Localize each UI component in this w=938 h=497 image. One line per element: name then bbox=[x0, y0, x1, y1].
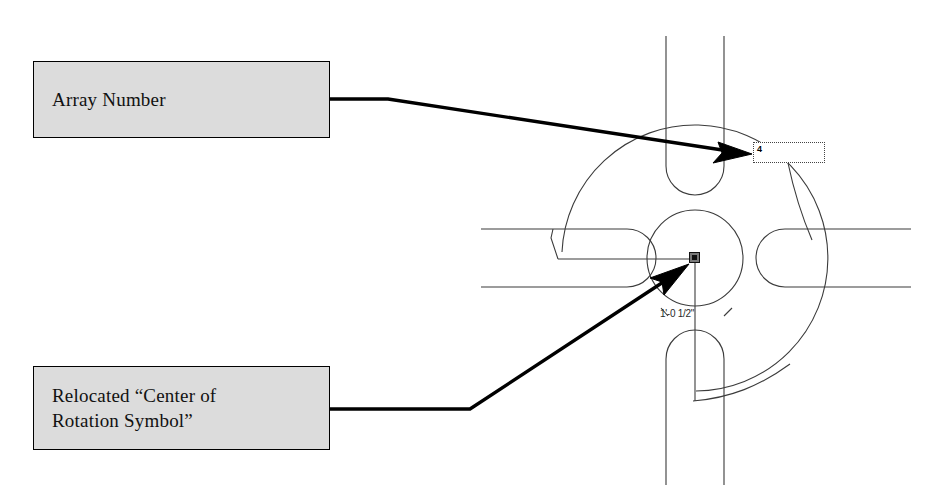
array-number-value: 4 bbox=[757, 144, 762, 154]
callout-label-array-number: Array Number bbox=[52, 87, 166, 112]
arrowhead-rotation-symbol bbox=[650, 264, 689, 295]
leader-line-rotation-symbol bbox=[330, 271, 680, 409]
center-of-rotation-symbol-core bbox=[692, 255, 697, 260]
figure-canvas: 4 1'-0 1/2" Array Number Relocated “Cent… bbox=[0, 0, 938, 497]
arrowhead-array-number bbox=[713, 142, 752, 163]
callout-label-rotation-symbol: Relocated “Center of Rotation Symbol” bbox=[52, 383, 216, 433]
callout-box-array-number[interactable]: Array Number bbox=[33, 61, 330, 138]
leader-line-array-number bbox=[330, 99, 742, 153]
radius-dimension-label: 1'-0 1/2" bbox=[660, 308, 694, 319]
array-number-textbox[interactable]: 4 bbox=[753, 142, 825, 163]
callout-box-rotation-symbol[interactable]: Relocated “Center of Rotation Symbol” bbox=[33, 366, 330, 450]
center-of-rotation-symbol[interactable] bbox=[689, 252, 700, 263]
